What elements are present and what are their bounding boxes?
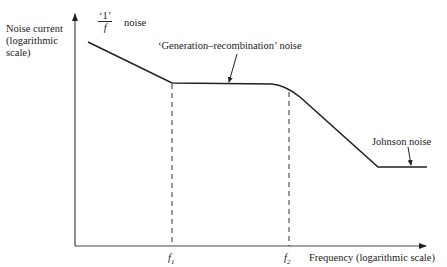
y-axis-label: Noise current (logarithmic scale) — [6, 23, 76, 59]
f1-label: f1 — [168, 252, 174, 267]
johnson-noise-label: Johnson noise — [372, 136, 431, 148]
noise-curve — [88, 42, 427, 167]
f2-label: f2 — [284, 252, 290, 267]
gr-noise-label: ‘Generation–recombination’ noise — [158, 40, 302, 52]
fraction-denominator: f — [98, 22, 112, 33]
johnson-pointer-arrow — [408, 147, 411, 165]
f2-subscript: 2 — [287, 258, 291, 266]
one-over-f-fraction: ‘1’ f — [98, 10, 112, 33]
gr-pointer-arrow — [229, 54, 237, 82]
x-axis-label: Frequency (logarithmic scale) — [309, 252, 435, 264]
one-over-f-noise-label: noise — [124, 17, 146, 29]
f1-subscript: 1 — [171, 258, 175, 266]
fraction-numerator: ‘1’ — [98, 10, 112, 22]
